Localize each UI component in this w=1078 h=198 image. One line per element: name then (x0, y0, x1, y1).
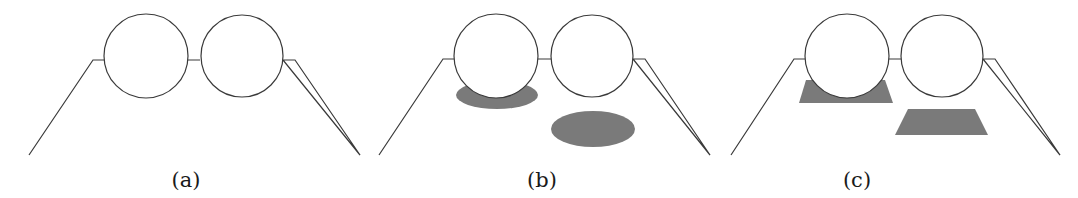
sphere-left (805, 14, 889, 98)
panel-label-a: (a) (172, 168, 201, 192)
table-trapezoid (731, 59, 1060, 155)
panel-label-b: (b) (527, 168, 557, 192)
sphere-right (901, 15, 983, 97)
panel-a: (a) (29, 14, 360, 192)
sphere-right (201, 15, 283, 97)
sphere-left (104, 14, 188, 98)
sphere-left (454, 14, 538, 98)
table-trapezoid (379, 59, 710, 155)
shadow-trapezoid-far (895, 109, 988, 135)
sphere-right (551, 15, 633, 97)
table-trapezoid (29, 60, 360, 155)
panel-c: (c) (731, 14, 1060, 192)
figure-canvas: (a) (b) (c) (0, 0, 1078, 198)
shadow-ellipse-far (551, 111, 635, 147)
panel-label-c: (c) (843, 168, 871, 192)
panel-b: (b) (379, 14, 710, 192)
